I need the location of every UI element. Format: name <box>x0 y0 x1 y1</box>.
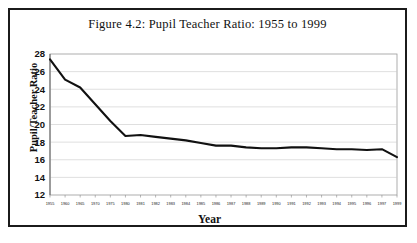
x-axis-tick-label: 1986 <box>212 201 221 206</box>
x-axis-tick-label: 1955 <box>46 201 55 206</box>
x-axis-tick-label: 1990 <box>272 201 281 206</box>
x-axis-tick-label: 1987 <box>227 201 236 206</box>
x-axis-tick-label: 1984 <box>181 201 190 206</box>
gridlines <box>50 54 397 195</box>
x-axis-tick-label: 1993 <box>317 201 326 206</box>
x-axis-title: Year <box>10 213 409 225</box>
x-axis-tick-label: 1975 <box>106 201 115 206</box>
x-axis-tick-label: 1988 <box>242 201 251 206</box>
x-axis-tick-label: 1970 <box>91 201 100 206</box>
x-axis-tick-label: 1992 <box>302 201 311 206</box>
x-axis-tick-label: 1996 <box>362 201 371 206</box>
x-axis-tick-label: 1983 <box>166 201 175 206</box>
y-axis-title: Pupil/Teacher Ratio <box>28 48 39 168</box>
x-axis-tick-label: 1995 <box>347 201 356 206</box>
x-axis-tick-label: 1991 <box>287 201 296 206</box>
y-axis-tick-label: 14 <box>34 172 45 183</box>
x-axis-tick-label: 1985 <box>197 201 206 206</box>
x-axis-tick-label: 1982 <box>151 201 160 206</box>
line-chart-svg: 282624222018161412 195519601965197019751… <box>10 10 409 229</box>
x-axis-tick-label: 1981 <box>136 201 145 206</box>
x-axis-ticks: 1955196019651970197519801981198219831984… <box>46 195 402 206</box>
x-axis-tick-label: 1960 <box>61 201 70 206</box>
y-axis-tick-label: 12 <box>34 189 45 200</box>
x-axis-tick-label: 1980 <box>121 201 130 206</box>
x-axis-tick-label: 1989 <box>257 201 266 206</box>
x-axis-tick-label: 1997 <box>378 201 387 206</box>
figure-frame: Figure 4.2: Pupil Teacher Ratio: 1955 to… <box>8 8 407 227</box>
x-axis-tick-label: 1994 <box>332 201 341 206</box>
x-axis-tick-label: 1965 <box>76 201 85 206</box>
chart-plot-area: Pupil/Teacher Ratio Year 282624222018161… <box>10 10 409 229</box>
x-axis-tick-label: 1999 <box>393 201 402 206</box>
